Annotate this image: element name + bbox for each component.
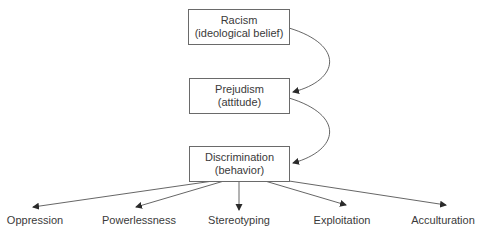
- arrow-to-exploitation: [265, 181, 346, 205]
- arrow-racism-to-prejudism: [289, 28, 330, 92]
- node-title: Prejudism: [215, 83, 264, 96]
- node-racism: Racism (ideological belief): [188, 9, 290, 45]
- node-title: Racism: [221, 14, 258, 27]
- outcome-stereotyping: Stereotyping: [208, 214, 270, 227]
- node-discrimination: Discrimination (behavior): [189, 146, 290, 182]
- node-subtitle: (behavior): [215, 164, 265, 177]
- arrow-prejudism-to-discrimination: [289, 98, 330, 163]
- node-prejudism: Prejudism (attitude): [189, 78, 290, 114]
- outcome-oppression: Oppression: [7, 214, 63, 227]
- node-subtitle: (attitude): [218, 96, 261, 109]
- outcome-exploitation: Exploitation: [314, 214, 371, 227]
- outcome-acculturation: Acculturation: [411, 214, 475, 227]
- arrow-to-powerlessness: [136, 181, 224, 207]
- node-title: Discrimination: [205, 151, 274, 164]
- arrow-to-oppression: [33, 181, 213, 207]
- arrow-to-acculturation: [289, 181, 446, 205]
- node-subtitle: (ideological belief): [195, 27, 284, 40]
- outcome-powerlessness: Powerlessness: [102, 214, 176, 227]
